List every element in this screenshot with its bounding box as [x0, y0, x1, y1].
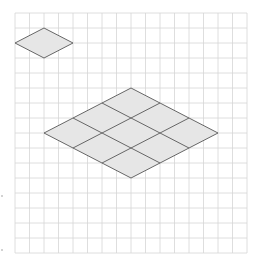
isometric-grid-diagram	[0, 0, 260, 268]
margin-dot	[1, 249, 3, 251]
large-rhombus-3x3	[44, 88, 218, 178]
margin-dots	[1, 195, 3, 251]
small-rhombus	[15, 28, 73, 58]
large-rhombus-outline	[44, 88, 218, 178]
margin-dot	[1, 195, 3, 197]
